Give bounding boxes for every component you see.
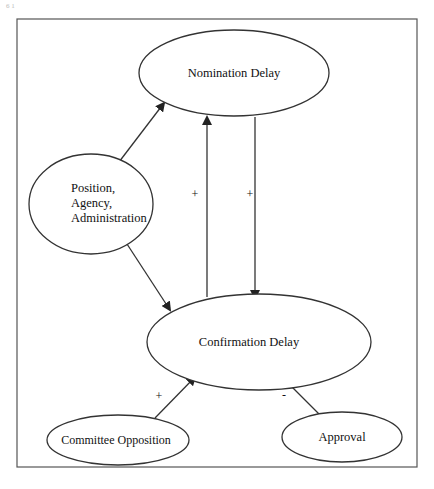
node-committee-label: Committee Opposition [61, 433, 171, 447]
node-approval: Approval [282, 412, 402, 462]
edge-position-to-nomination [119, 103, 164, 162]
node-position-label-line1: Position, [71, 181, 115, 195]
sign-confirmation-to-nomination: + [192, 187, 199, 201]
node-confirmation-delay: Confirmation Delay [147, 294, 371, 390]
node-nomination-delay: Nomination Delay [139, 30, 329, 116]
edge-position-to-confirmation [127, 244, 170, 310]
sign-nomination-to-confirmation: + [247, 187, 254, 201]
causal-diagram: + + + - Nomination Delay Position, Agenc… [0, 0, 434, 489]
node-confirmation-label: Confirmation Delay [199, 335, 300, 349]
sign-committee-to-confirmation: + [156, 389, 163, 403]
sign-approval-to-confirmation: - [282, 388, 286, 402]
node-approval-label: Approval [318, 430, 366, 444]
node-position-label-line3: Administration [71, 211, 147, 225]
node-committee-opposition: Committee Opposition [47, 415, 189, 465]
node-position-agency-administration: Position, Agency, Administration [29, 154, 153, 254]
node-nomination-label: Nomination Delay [188, 66, 281, 80]
node-position-label-line2: Agency, [71, 196, 112, 210]
